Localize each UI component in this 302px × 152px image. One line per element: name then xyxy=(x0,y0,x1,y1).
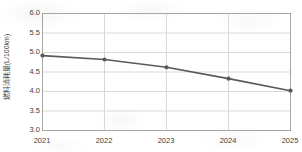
fuel-consumption-line-chart: 燃料消耗量(L/100km) 6.0 5.5 5.0 4.5 4.0 3.5 3… xyxy=(0,0,302,152)
data-point-marker xyxy=(102,57,106,61)
plot-area xyxy=(0,0,302,152)
data-point-marker xyxy=(40,54,44,58)
data-point-marker xyxy=(226,77,230,81)
data-point-marker xyxy=(288,89,292,93)
data-point-marker xyxy=(164,65,168,69)
